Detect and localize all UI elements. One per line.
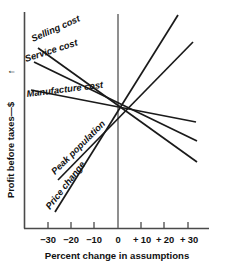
series-line-service-cost — [34, 62, 197, 141]
x-tick-label-minus10: −10 — [86, 234, 102, 245]
chart-canvas: Selling cost Service cost Manufacture co… — [0, 0, 229, 268]
y-axis-arrow-icon: ↑ — [6, 70, 16, 75]
x-axis-title: Percent change in assumptions — [45, 250, 189, 261]
x-tick-label-zero: 0 — [115, 234, 120, 245]
y-axis-title: Profit before taxes—$ — [6, 101, 16, 198]
series-labels-group: Selling cost Service cost Manufacture co… — [24, 13, 108, 211]
x-tick-label-plus10: + 10 — [133, 234, 151, 245]
x-tick-label-minus30: −30 — [40, 234, 56, 245]
x-tick-label-plus20: + 20 — [156, 234, 174, 245]
x-axis-tick-labels: −30 −20 −10 0 + 10 + 20 + 30 — [40, 234, 198, 245]
x-tick-label-minus20: −20 — [63, 234, 79, 245]
x-tick-label-plus30: + 30 — [180, 234, 198, 245]
y-axis-title-group: Profit before taxes—$ ↑ — [6, 70, 16, 198]
sensitivity-chart: Selling cost Service cost Manufacture co… — [0, 0, 229, 268]
